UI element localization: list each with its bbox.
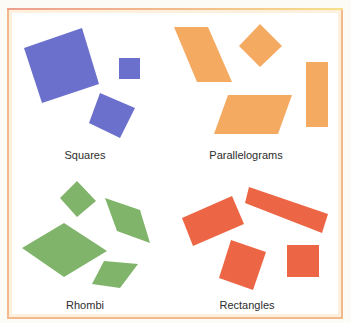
rectangles-group: [182, 187, 328, 290]
label-squares: Squares: [25, 149, 145, 161]
parallelogram-diamond: [239, 24, 282, 67]
rhombus-large: [22, 223, 107, 277]
label-rectangles: Rectangles: [187, 299, 307, 311]
square-large: [24, 28, 99, 103]
parallelogram-wide: [214, 95, 292, 134]
parallelogram-slanted: [174, 27, 232, 82]
quadrilaterals-diagram: [0, 0, 351, 323]
rectangle-tilted-square: [219, 240, 266, 290]
rhombus-slanted: [105, 198, 150, 243]
square-small: [119, 58, 140, 79]
squares-group: [24, 28, 140, 138]
parallelograms-group: [174, 24, 328, 134]
rhombi-group: [22, 181, 150, 288]
parallelogram-rectangle: [306, 62, 328, 127]
square-medium: [89, 93, 135, 138]
label-rhombi: Rhombi: [25, 299, 145, 311]
label-parallelograms: Parallelograms: [186, 149, 306, 161]
rectangle-left: [182, 196, 244, 246]
rectangle-long: [245, 187, 328, 233]
rhombus-small: [60, 181, 96, 217]
rectangle-square: [287, 245, 319, 277]
rhombus-bottom: [92, 261, 138, 288]
